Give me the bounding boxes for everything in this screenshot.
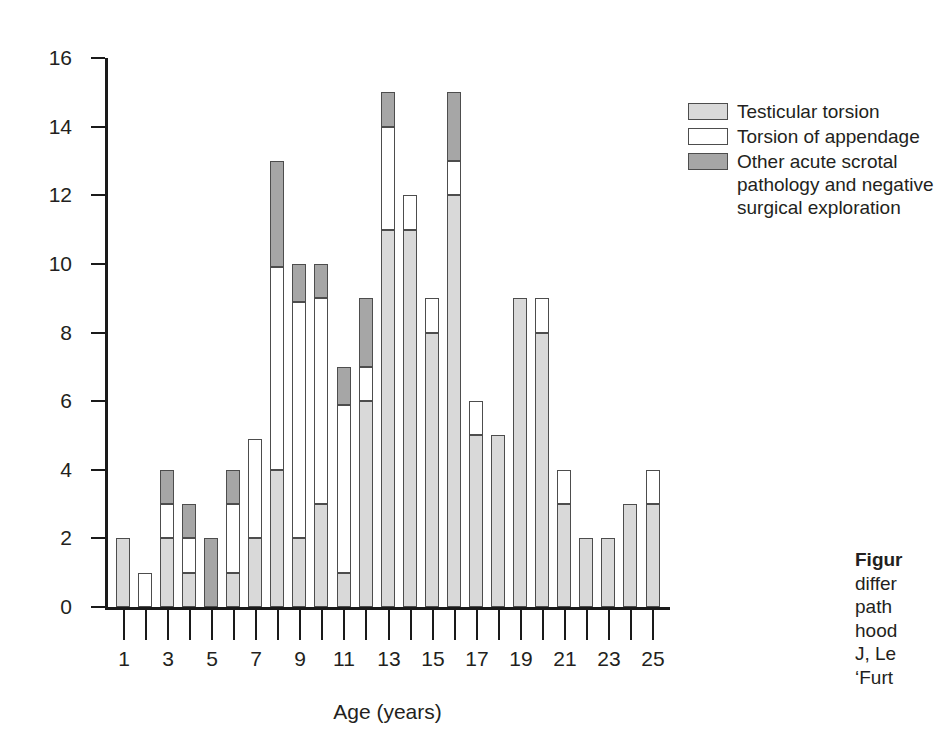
- bar-segment: [381, 127, 395, 230]
- bar-group: [292, 58, 306, 607]
- x-tick-mark: [233, 610, 235, 640]
- x-tick-label: 15: [413, 648, 453, 670]
- legend-item-torsion-of-appendage: Torsion of appendage: [688, 125, 938, 148]
- bar-segment: [447, 161, 461, 195]
- legend-item-testicular-torsion: Testicular torsion: [688, 100, 938, 123]
- bar-group: [116, 58, 130, 607]
- bar-group: [160, 58, 174, 607]
- bar-group: [601, 58, 615, 607]
- x-tick-mark: [388, 610, 390, 640]
- bar-group: [447, 58, 461, 607]
- y-tick-mark: [91, 469, 105, 471]
- caption-line-1: Figur: [855, 548, 940, 572]
- bar-group: [469, 58, 483, 607]
- legend-label-block: Other acute scrotal pathology and negati…: [737, 150, 934, 219]
- figure-caption: Figur differ path hood J, Le ‘Furt: [855, 548, 940, 688]
- y-tick-label: 12: [30, 184, 72, 205]
- x-tick-mark: [255, 610, 257, 640]
- bar-segment: [381, 230, 395, 607]
- legend-label: Testicular torsion: [737, 100, 880, 123]
- bar-segment: [248, 538, 262, 607]
- x-tick-mark: [542, 610, 544, 640]
- legend-label-line1: Other acute scrotal: [737, 151, 898, 172]
- legend-label-line3: surgical exploration: [737, 197, 901, 218]
- bar-group: [579, 58, 593, 607]
- bar-segment: [292, 302, 306, 539]
- bar-segment: [425, 298, 439, 332]
- legend-label-line2: pathology and negative: [737, 174, 934, 195]
- bar-segment: [601, 538, 615, 607]
- bar-segment: [447, 195, 461, 607]
- x-tick-label: 7: [236, 648, 276, 670]
- bar-segment: [182, 504, 196, 538]
- legend-label: Torsion of appendage: [737, 125, 920, 148]
- x-tick-mark: [652, 610, 654, 640]
- bar-segment: [359, 298, 373, 367]
- x-tick-mark: [476, 610, 478, 640]
- bar-segment: [447, 92, 461, 161]
- bar-group: [314, 58, 328, 607]
- bar-segment: [226, 573, 240, 607]
- x-tick-mark: [123, 610, 125, 640]
- caption-line-4: hood: [855, 619, 940, 643]
- x-tick-label: 21: [545, 648, 585, 670]
- caption-line-6: ‘Furt: [855, 666, 940, 689]
- caption-line-3: path: [855, 595, 940, 619]
- bar-segment: [204, 538, 218, 607]
- bar-group: [513, 58, 527, 607]
- bar-group: [403, 58, 417, 607]
- y-tick-label: 16: [30, 47, 72, 68]
- bar-group: [226, 58, 240, 607]
- bar-segment: [425, 333, 439, 608]
- x-tick-label: 17: [457, 648, 497, 670]
- x-tick-mark: [299, 610, 301, 640]
- y-tick-label: 2: [30, 527, 72, 548]
- x-tick-mark: [586, 610, 588, 640]
- bar-segment: [337, 405, 351, 573]
- bar-segment: [359, 401, 373, 607]
- bar-segment: [138, 573, 152, 607]
- bar-segment: [557, 470, 571, 504]
- y-tick-mark: [91, 126, 105, 128]
- y-tick-mark: [91, 57, 105, 59]
- bar-segment: [248, 439, 262, 539]
- bar-group: [359, 58, 373, 607]
- x-tick-label: 23: [589, 648, 629, 670]
- bar-segment: [292, 264, 306, 302]
- chart-legend: Testicular torsion Torsion of appendage …: [688, 100, 938, 221]
- bar-segment: [314, 264, 328, 298]
- y-tick-mark: [91, 332, 105, 334]
- bar-segment: [469, 401, 483, 435]
- bar-segment: [160, 538, 174, 607]
- bar-segment: [557, 504, 571, 607]
- bar-group: [204, 58, 218, 607]
- x-tick-label: 25: [633, 648, 673, 670]
- bar-segment: [579, 538, 593, 607]
- bar-segment: [314, 504, 328, 607]
- bar-group: [646, 58, 660, 607]
- x-tick-mark: [365, 610, 367, 640]
- y-tick-label: 0: [30, 596, 72, 617]
- bar-segment: [314, 298, 328, 504]
- x-tick-mark: [630, 610, 632, 640]
- bar-segment: [292, 538, 306, 607]
- bar-segment: [160, 504, 174, 538]
- bar-segment: [226, 504, 240, 573]
- x-tick-mark: [211, 610, 213, 640]
- bar-segment: [270, 470, 284, 607]
- x-tick-label: 5: [192, 648, 232, 670]
- bar-segment: [226, 470, 240, 504]
- bar-group: [623, 58, 637, 607]
- x-tick-mark: [432, 610, 434, 640]
- x-tick-mark: [498, 610, 500, 640]
- chart-plot-area: 0246810121416 135791113151719212325 Age …: [0, 0, 720, 755]
- x-tick-mark: [145, 610, 147, 640]
- y-tick-label: 8: [30, 322, 72, 343]
- bar-segment: [182, 538, 196, 572]
- bar-segment: [513, 298, 527, 607]
- x-tick-label: 9: [280, 648, 320, 670]
- x-tick-label: 1: [104, 648, 144, 670]
- bar-segment: [270, 267, 284, 469]
- x-tick-mark: [189, 610, 191, 640]
- bar-group: [182, 58, 196, 607]
